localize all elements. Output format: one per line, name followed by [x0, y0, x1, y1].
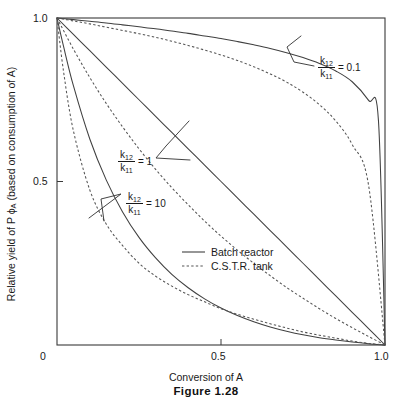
fraction-denominator: k11: [127, 204, 141, 215]
y-axis-label-prefix: Relative yield of P: [5, 214, 17, 301]
y-axis-label: Relative yield of P ϕA (based on consump…: [5, 19, 21, 349]
leader-ratio-10: [89, 194, 121, 221]
phi-symbol: ϕ: [5, 208, 17, 214]
annotation-ratio-0p1: k12 k11 = 0.1: [318, 56, 361, 79]
y-tick-label-0p5: 0.5: [33, 176, 48, 187]
annotation-value-1: = 1: [138, 157, 152, 167]
annotation-value-10: = 10: [146, 199, 166, 209]
fraction-denominator: k11: [119, 162, 133, 173]
figure-1-28: 1.0 0.5 0 0.5 1.0 Conversion of A Relati…: [0, 0, 412, 404]
annotation-leaders: [89, 36, 314, 221]
fraction-k12-k11: k12 k11: [118, 150, 135, 173]
figure-caption: Figure 1.28: [0, 385, 412, 397]
leader-ratio-1: [156, 121, 190, 160]
legend-marks: [182, 252, 205, 266]
annotation-ratio-1: k12 k11 = 1: [118, 150, 152, 173]
legend-label-batch-reactor: Batch reactor: [211, 246, 273, 258]
y-tick-label-1p0: 1.0: [33, 13, 48, 24]
fraction-numerator: k12: [127, 192, 142, 203]
annotation-value-0p1: = 0.1: [338, 63, 361, 73]
phi-subscript: A: [9, 203, 18, 208]
leader-ratio-0p1: [287, 36, 314, 66]
fraction-k12-k11: k12 k11: [126, 192, 143, 215]
x-tick-label-0: 0: [40, 351, 46, 362]
x-axis-label: Conversion of A: [0, 371, 412, 383]
fraction-k12-k11: k12 k11: [318, 56, 335, 79]
legend-label-cstr-tank: C.S.T.R. tank: [211, 260, 273, 272]
fraction-numerator: k12: [119, 150, 134, 161]
fraction-denominator: k11: [319, 68, 333, 79]
x-tick-label-0p5: 0.5: [211, 351, 226, 362]
annotation-ratio-10: k12 k11 = 10: [126, 192, 166, 215]
y-axis-label-suffix: (based on consumption of A): [5, 67, 17, 204]
fraction-numerator: k12: [319, 56, 334, 67]
x-tick-label-1p0: 1.0: [374, 351, 389, 362]
